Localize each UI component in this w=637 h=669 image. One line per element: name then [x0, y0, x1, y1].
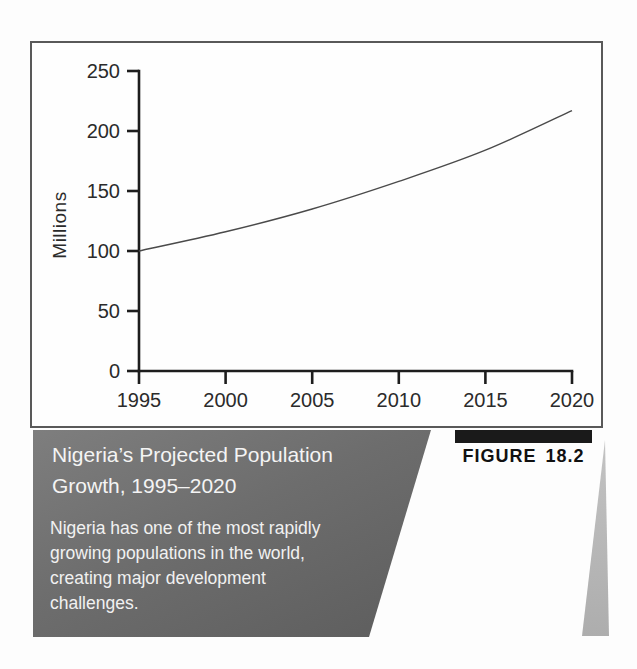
figure-description: Nigeria has one of the most rapidly grow…	[50, 516, 350, 616]
y-tick-label: 0	[109, 360, 120, 382]
y-tick-label: 250	[87, 60, 120, 82]
figure-label-bar	[455, 430, 592, 443]
x-tick-label: 2000	[203, 389, 248, 411]
figure-number-label: FIGURE 18.2	[452, 446, 595, 467]
x-tick-label: 2010	[377, 389, 422, 411]
y-axis-title: Millions	[49, 165, 73, 285]
x-tick-label: 1995	[117, 389, 162, 411]
y-tick-label: 100	[87, 240, 120, 262]
y-tick-label: 150	[87, 180, 120, 202]
y-tick-label: 50	[98, 300, 120, 322]
x-tick-label: 2005	[290, 389, 335, 411]
y-tick-label: 200	[87, 120, 120, 142]
caption-band: Nigeria’s Projected Population Growth, 1…	[33, 430, 432, 637]
x-tick-label: 2020	[550, 389, 595, 411]
population-curve	[139, 111, 572, 251]
axes	[127, 70, 573, 384]
x-tick-label: 2015	[463, 389, 508, 411]
book-figure-page: 050100150200250199520002005201020152020 …	[0, 0, 637, 669]
figure-title: Nigeria’s Projected Population Growth, 1…	[52, 439, 382, 501]
